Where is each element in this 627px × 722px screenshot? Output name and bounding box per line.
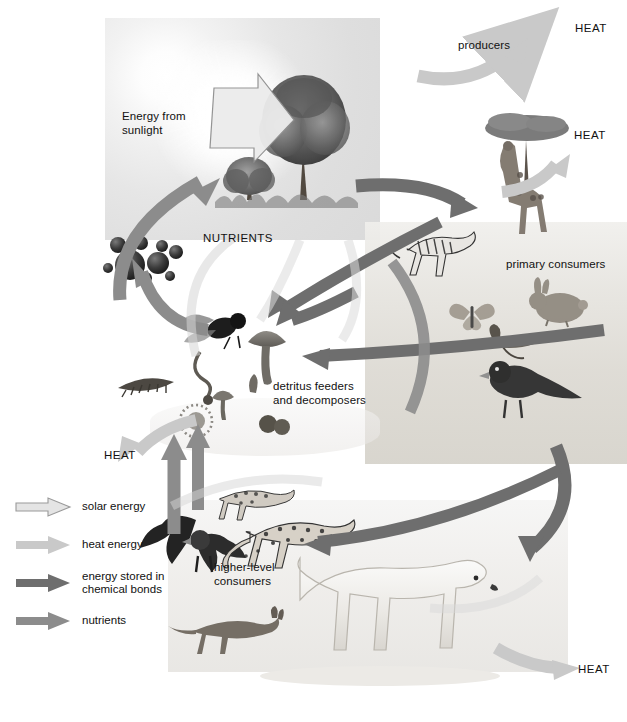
label-energy-from-sunlight: Energy from sunlight: [122, 110, 186, 137]
legend-label: energy stored in chemical bonds: [82, 570, 164, 597]
label-heat-primary-consumers: HEAT: [574, 129, 606, 143]
rabbit-icon: [529, 277, 588, 327]
legend-label: nutrients: [82, 614, 126, 628]
acacia-tree-icon: [485, 113, 569, 190]
serval-icon: [219, 490, 294, 520]
legend-label: heat energy: [82, 538, 143, 552]
legend-item: heat energy: [14, 530, 189, 560]
label-primary-consumers: primary consumers: [506, 258, 605, 272]
zebra-icon: [388, 232, 475, 276]
arrow-right-icon: [14, 611, 72, 631]
label-detritus-feeders: detritus feeders and decomposers: [273, 380, 366, 407]
legend-item: solar energy: [14, 492, 189, 522]
label-nutrients: NUTRIENTS: [203, 232, 273, 246]
mineral-spheres-icon: [103, 236, 183, 284]
songbird-icon: [479, 361, 582, 418]
arrow-right-icon: [14, 497, 72, 517]
legend-label: solar energy: [82, 500, 145, 514]
label-producers: producers: [458, 39, 510, 53]
bacteria-cluster-icon: [180, 405, 212, 437]
worm-icon: [195, 352, 213, 405]
legend: solar energy heat energy energy stored i…: [14, 492, 189, 644]
butterfly-icon: [449, 304, 494, 330]
arrow-right-icon: [14, 535, 72, 555]
centipede-icon: [118, 378, 174, 397]
fly-icon: [182, 313, 246, 349]
label-higher-level-consumers: higher-level consumers: [214, 561, 275, 588]
label-heat-bottom: HEAT: [578, 663, 610, 677]
grass-icon: [215, 194, 358, 208]
legend-item: nutrients: [14, 606, 189, 636]
tree-small-icon: [223, 157, 275, 200]
legend-item: energy stored in chemical bonds: [14, 568, 189, 598]
label-heat-producers: HEAT: [575, 22, 607, 36]
mushroom-small-icon: [212, 374, 258, 420]
giraffe-icon: [500, 141, 547, 234]
puffball-icon: [259, 415, 290, 435]
grasshopper-icon: [478, 324, 556, 358]
label-heat-detritus: HEAT: [104, 449, 136, 463]
polar-bear-icon: [260, 558, 500, 686]
ecosystem-diagram: Energy from sunlight producers HEAT HEAT…: [0, 0, 627, 722]
arrow-right-icon: [14, 573, 72, 593]
